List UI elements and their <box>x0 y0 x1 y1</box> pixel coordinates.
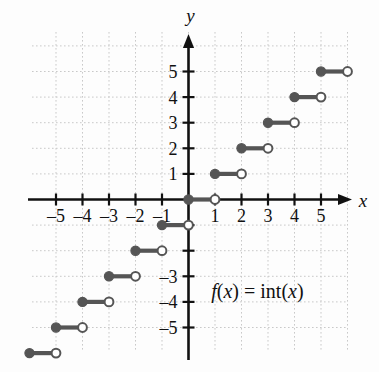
y-tick-label: 3 <box>169 113 178 133</box>
open-endpoint-dot <box>78 323 87 332</box>
closed-endpoint-dot <box>104 272 113 281</box>
open-endpoint-dot <box>105 298 114 307</box>
x-tick-label: –2 <box>126 206 145 226</box>
open-endpoint-dot <box>317 93 326 102</box>
x-tick-label: 1 <box>211 206 220 226</box>
y-tick-label: 2 <box>169 139 178 159</box>
open-endpoint-dot <box>131 272 140 281</box>
closed-endpoint-dot <box>290 93 299 102</box>
x-axis-label: x <box>358 190 368 211</box>
axis-name-labels: xy <box>184 5 368 211</box>
x-tick-label: –4 <box>73 206 92 226</box>
y-axis-label: y <box>184 5 195 26</box>
closed-endpoint-dot <box>131 246 140 255</box>
x-tick-label: –3 <box>99 206 118 226</box>
y-tick-label: 1 <box>169 164 178 184</box>
y-tick-label: –3 <box>159 267 178 287</box>
step-function-plot: –5–4–3–2–11234554321–3–4–5 xy f(x) = int… <box>0 0 379 372</box>
closed-endpoint-dot <box>25 349 34 358</box>
closed-endpoint-dot <box>316 67 325 76</box>
x-tick-label: –5 <box>46 206 65 226</box>
closed-endpoint-dot <box>184 195 193 204</box>
x-tick-label: 3 <box>264 206 273 226</box>
open-endpoint-dot <box>52 349 61 358</box>
open-endpoint-dot <box>184 221 193 230</box>
y-tick-label: –5 <box>159 318 178 338</box>
graph-figure: –5–4–3–2–11234554321–3–4–5 xy f(x) = int… <box>0 0 379 372</box>
closed-endpoint-dot <box>263 118 272 127</box>
x-tick-label: 4 <box>290 206 299 226</box>
open-endpoint-dot <box>290 118 299 127</box>
open-endpoint-dot <box>264 144 273 153</box>
open-endpoint-dot <box>343 67 352 76</box>
x-axis-arrowhead <box>338 194 352 205</box>
y-tick-label: 5 <box>169 62 178 82</box>
function-annotation: f(x) = int(x) <box>211 280 303 303</box>
y-axis-arrowhead <box>183 34 194 48</box>
function-equation-label: f(x) = int(x) <box>211 280 303 303</box>
closed-endpoint-dot <box>157 221 166 230</box>
y-tick-label: –4 <box>159 292 178 312</box>
closed-endpoint-dot <box>210 169 219 178</box>
closed-endpoint-dot <box>78 297 87 306</box>
x-tick-label: 2 <box>237 206 246 226</box>
closed-endpoint-dot <box>51 323 60 332</box>
closed-endpoint-dot <box>237 144 246 153</box>
y-tick-label: 4 <box>169 88 178 108</box>
open-endpoint-dot <box>158 246 167 255</box>
x-tick-label: 5 <box>317 206 326 226</box>
open-endpoint-dot <box>237 170 246 179</box>
open-endpoint-dot <box>211 195 220 204</box>
